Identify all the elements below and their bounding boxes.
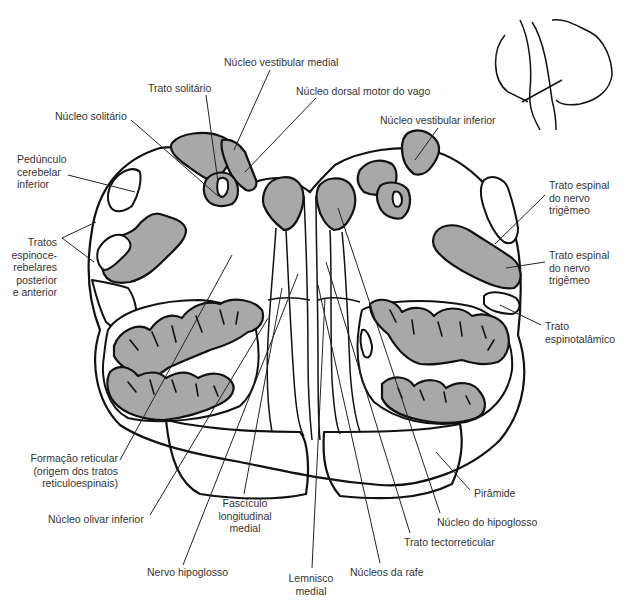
label-lemnisco-medial: Lemnisco medial	[283, 572, 339, 597]
solitary-tract-right	[393, 191, 402, 206]
solitary-tract-left	[217, 178, 228, 197]
label-nucleo-solitario: Núcleo solitário	[55, 110, 127, 123]
hypoglossal-nucleus-right	[317, 178, 356, 230]
label-nucleo-dorsal-motor-vago: Núcleo dorsal motor do vago	[296, 85, 430, 98]
label-formacao-reticular: Formação reticular (origem dos tratos re…	[20, 452, 118, 490]
label-nucleos-da-rafe: Núcleos da rafe	[350, 566, 424, 579]
label-trato-espinotalamico: Trato espinotalâmico	[545, 320, 615, 345]
label-nucleo-do-hipoglosso: Núcleo do hipoglosso	[437, 516, 537, 529]
medial-lemniscus-left	[267, 228, 304, 436]
label-piramide: Pirâmide	[474, 487, 515, 500]
pyramid-left	[166, 420, 308, 499]
label-trato-espinal-trigemeo-1: Trato espinal do nervo trigêmeo	[549, 179, 609, 217]
spinothalamic-tract-right	[484, 292, 519, 314]
label-nucleo-olivar-inferior: Núcleo olivar inferior	[48, 513, 144, 526]
raphe-midline	[304, 196, 320, 440]
pyramid-right	[324, 424, 462, 498]
label-nervo-hipoglosso: Nervo hipoglosso	[147, 566, 228, 579]
inferior-cerebellar-peduncle	[108, 169, 141, 211]
medulla-cross-section-diagram: Núcleo vestibular medial Trato solitário…	[0, 0, 630, 605]
label-tratos-espinocerebelares: Tratos espinoce- rebelares posterior e a…	[4, 236, 57, 299]
label-nucleo-vestibular-medial: Núcleo vestibular medial	[224, 56, 338, 69]
label-nucleo-vestibular-inferior: Núcleo vestibular inferior	[380, 114, 496, 127]
hypoglossal-nucleus-left	[263, 177, 304, 230]
spinal-trigeminal-tract-right	[481, 177, 518, 243]
orientation-inset	[496, 20, 612, 130]
label-trato-espinal-trigemeo-2: Trato espinal do nervo trigêmeo	[549, 249, 609, 287]
label-fasciculo-longitudinal-medial: Fascículo longitudinal medial	[210, 497, 280, 535]
label-trato-solitario: Trato solitário	[148, 82, 211, 95]
label-trato-tectorreticular: Trato tectorreticular	[404, 536, 495, 549]
label-pedunculo-cerebelar-inferior: Pedúnculo cerebelar inferior	[17, 153, 67, 191]
